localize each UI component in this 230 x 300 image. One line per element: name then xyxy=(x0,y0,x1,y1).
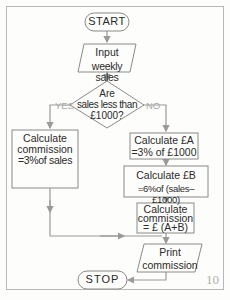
yes-label: YES xyxy=(55,100,74,111)
stop-terminal: STOP xyxy=(78,274,127,285)
page-number: 10 xyxy=(206,272,219,288)
calc-a-line-1: Calculate £A xyxy=(130,135,198,146)
input-line-2: weekly sales xyxy=(80,61,134,83)
input-weekly-sales: Input weekly sales xyxy=(80,47,134,83)
input-line-1: Input xyxy=(80,47,134,58)
start-terminal: START xyxy=(85,16,129,27)
print-line-1: Print xyxy=(139,247,201,258)
calc-a-line-2: =3% of £1000 xyxy=(130,147,198,158)
yes-box-line-3: =3%of sales xyxy=(12,155,78,166)
decision-sales-less-than-1000: Are sales less than £1000? xyxy=(70,88,144,121)
calc-b-line-2: =6%of (sales–£1000) xyxy=(124,183,208,205)
decision-line-1: Are xyxy=(70,88,144,99)
calc-commission-3pct: Calculate commission =3%of sales xyxy=(12,133,78,166)
calc-commission-a-plus-b: Calculate commission = £ (A+B) xyxy=(137,205,194,232)
print-commission: Print commission xyxy=(139,247,201,271)
decision-line-2: sales less than xyxy=(70,99,144,110)
calc-b: Calculate £B =6%of (sales–£1000) xyxy=(124,170,208,205)
no-label: NO xyxy=(146,100,160,111)
calc-comm-line-3: = £ (A+B) xyxy=(137,223,194,232)
calc-b-line-1: Calculate £B xyxy=(124,170,208,181)
decision-line-3: £1000? xyxy=(70,110,144,121)
calc-a: Calculate £A =3% of £1000 xyxy=(130,135,198,158)
print-line-2: commission xyxy=(139,260,201,271)
